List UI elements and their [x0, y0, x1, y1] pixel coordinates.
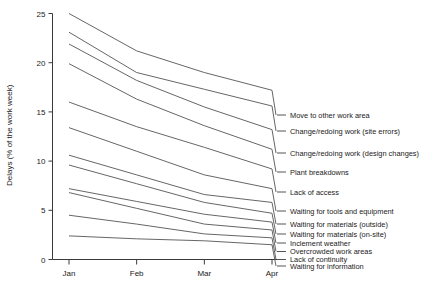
legend-label: Waiting for information — [290, 262, 364, 271]
y-tick-label: 20 — [37, 59, 46, 68]
series-lines — [69, 14, 272, 245]
x-axis-ticks: JanFebMarApr — [63, 260, 279, 278]
legend-leader-line — [272, 169, 276, 192]
series-line — [69, 193, 272, 230]
series-line — [69, 236, 272, 245]
chart-container: Delays (% of the work week) 0510152025 J… — [0, 0, 429, 293]
legend-leader-line — [272, 149, 276, 172]
legend-leader-line — [272, 130, 276, 153]
y-axis-title: Delays (% of the work week) — [5, 84, 14, 186]
legend-label: Change/redoing work (design changes) — [290, 149, 419, 158]
delays-line-chart: Delays (% of the work week) 0510152025 J… — [0, 0, 429, 293]
x-tick-label: Jan — [63, 269, 76, 278]
legend-label: Plant breakdowns — [290, 168, 349, 177]
series-line — [69, 165, 272, 213]
series-line — [69, 32, 272, 106]
y-tick-label: 15 — [37, 108, 46, 117]
y-tick-label: 5 — [41, 206, 46, 215]
legend-label: Lack of access — [290, 188, 339, 197]
y-tick-label: 25 — [37, 10, 46, 19]
x-tick-label: Mar — [197, 269, 211, 278]
legend-label: Waiting for materials (on-site) — [290, 230, 386, 239]
legend-label: Change/redoing work (site errors) — [290, 127, 400, 136]
series-line — [69, 155, 272, 202]
series-line — [69, 14, 272, 91]
y-axis-ticks: 0510152025 — [37, 10, 53, 265]
legend-label: Waiting for materials (outside) — [290, 220, 388, 229]
series-line — [69, 44, 272, 130]
series-line — [69, 64, 272, 150]
legend: Move to other work areaChange/redoing wo… — [277, 111, 419, 271]
series-line — [69, 189, 272, 222]
x-tick-label: Feb — [130, 269, 144, 278]
legend-label: Waiting for tools and equipment — [290, 207, 394, 216]
y-tick-label: 0 — [41, 256, 46, 265]
legend-label: Move to other work area — [290, 111, 371, 120]
legend-leader-lines — [272, 90, 276, 266]
x-tick-label: Apr — [266, 269, 279, 278]
y-tick-label: 10 — [37, 157, 46, 166]
